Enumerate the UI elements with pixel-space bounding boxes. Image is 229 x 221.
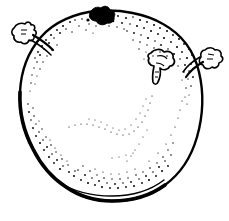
stem-scar-fleck-a	[86, 18, 89, 21]
fruit-body-group	[20, 11, 202, 201]
fruit-illustration-canvas	[0, 0, 229, 221]
fruit-illustration: Line drawing of a round fruit with stem …	[0, 0, 229, 221]
twig-stub-right-shape	[199, 48, 222, 69]
